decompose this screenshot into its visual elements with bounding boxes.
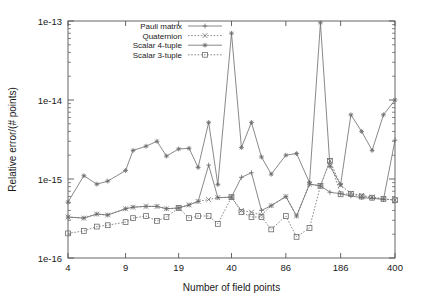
- series-line: [68, 23, 395, 202]
- legend-sample-marker-2: [203, 43, 208, 48]
- x-tick-label: 40: [226, 262, 237, 273]
- legend-sample-marker-0: [203, 24, 208, 29]
- x-tick-label: 19: [173, 262, 184, 273]
- legend-sample-marker-1: [203, 33, 208, 38]
- y-tick-label: 1e-14: [38, 95, 62, 106]
- series-scalar-4-tuple: [66, 20, 398, 204]
- x-tick-label: 186: [333, 262, 349, 273]
- series-pauli-matrix: [66, 138, 398, 221]
- legend-label-3: Scalar 3-tuple: [133, 51, 183, 60]
- y-tick-label: 1e-15: [38, 174, 62, 185]
- series-line: [68, 161, 395, 218]
- plot-frame: [68, 21, 395, 258]
- y-axis-title: Relative error/(# points): [7, 87, 18, 191]
- x-axis-title: Number of field points: [183, 282, 280, 293]
- chart-figure: 1e-161e-151e-141e-1349194086186400Number…: [0, 0, 421, 305]
- series-line: [68, 140, 395, 218]
- legend-label-1: Quaternion: [142, 32, 182, 41]
- x-tick-label: 400: [387, 262, 403, 273]
- plot-canvas: 1e-161e-151e-141e-1349194086186400Number…: [0, 0, 421, 305]
- legend-label-2: Scalar 4-tuple: [133, 41, 183, 50]
- y-tick-label: 1e-13: [38, 16, 62, 27]
- x-tick-label: 4: [65, 262, 70, 273]
- x-tick-label: 86: [281, 262, 292, 273]
- x-tick-label: 9: [123, 262, 128, 273]
- y-tick-label: 1e-16: [38, 253, 62, 264]
- series-quaternion: [66, 158, 398, 220]
- legend-label-0: Pauli matrix: [140, 22, 182, 31]
